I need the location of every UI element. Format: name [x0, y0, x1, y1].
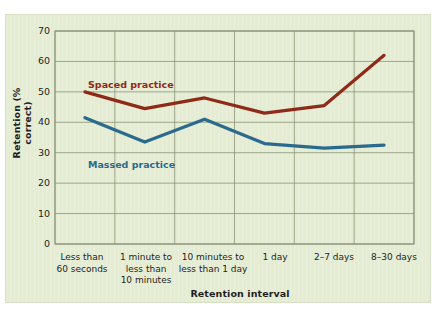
y-tick-label: 60: [26, 55, 50, 66]
series-annotation-massed-practice: Massed practice: [88, 159, 175, 170]
y-tick-label: 40: [26, 116, 50, 127]
y-tick-label: 20: [26, 177, 50, 188]
x-axis-label: Retention interval: [150, 288, 330, 299]
x-tick-label: 1 day: [248, 252, 302, 264]
y-tick-label: 70: [26, 25, 50, 36]
y-tick-label: 0: [26, 238, 50, 249]
x-tick-label: Less than 60 seconds: [45, 252, 119, 275]
x-tick-label: 10 minutes to less than 1 day: [172, 252, 254, 275]
y-tick-label: 50: [26, 86, 50, 97]
series-annotation-spaced-practice: Spaced practice: [88, 79, 174, 90]
x-tick-label: 2–7 days: [300, 252, 368, 264]
chart-figure: Retention (% correct) Retention interval…: [0, 0, 436, 309]
x-tick-label: 8–30 days: [360, 252, 428, 264]
y-tick-label: 10: [26, 208, 50, 219]
y-tick-label: 30: [26, 147, 50, 158]
